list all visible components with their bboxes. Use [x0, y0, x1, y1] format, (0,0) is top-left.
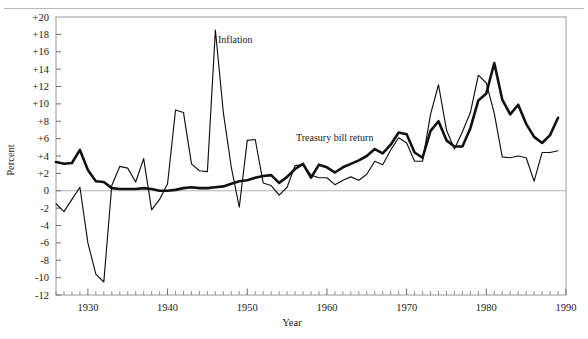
- figure-container: +20+18+16+14+12+10+8+6+4+20-2-4-6-8-10-1…: [0, 0, 588, 339]
- y-tick-label: 0: [44, 185, 49, 196]
- x-tick-label: 1970: [396, 302, 417, 313]
- y-tick-label: +20: [33, 12, 49, 23]
- series-line-inflation: [56, 30, 558, 282]
- y-tick-label: -10: [35, 272, 49, 283]
- top-rule: [4, 8, 584, 9]
- y-axis-ticks: [56, 34, 61, 295]
- plot-frame: [56, 17, 566, 295]
- y-tick-label: +16: [33, 46, 49, 57]
- y-tick-label: +2: [38, 168, 49, 179]
- x-tick-label: 1990: [556, 302, 577, 313]
- series-annotation-inflation: Inflation: [218, 34, 252, 45]
- y-axis-title: Percent: [5, 144, 16, 176]
- inflation-vs-tbill-line-chart: +20+18+16+14+12+10+8+6+4+20-2-4-6-8-10-1…: [0, 0, 588, 339]
- series-line-treasury-bill: [56, 63, 558, 191]
- x-tick-label: 1960: [316, 302, 337, 313]
- y-tick-label: +12: [33, 81, 49, 92]
- y-tick-label: +8: [38, 116, 49, 127]
- y-tick-label: +18: [33, 29, 49, 40]
- x-tick-label: 1940: [157, 302, 178, 313]
- y-tick-label: -8: [40, 255, 49, 266]
- y-tick-label: +14: [33, 64, 50, 75]
- y-tick-label: +10: [33, 98, 49, 109]
- y-tick-label: +6: [38, 133, 49, 144]
- y-tick-label: -2: [40, 203, 49, 214]
- x-axis-ticks: [56, 289, 566, 296]
- y-tick-label: -4: [40, 220, 49, 231]
- x-tick-label: 1930: [77, 302, 98, 313]
- x-tick-label: 1980: [476, 302, 497, 313]
- x-tick-label: 1950: [237, 302, 258, 313]
- x-axis-tick-labels: 1930194019501960197019801990: [77, 302, 576, 313]
- x-axis-title: Year: [282, 317, 302, 328]
- y-axis-tick-labels: +20+18+16+14+12+10+8+6+4+20-2-4-6-8-10-1…: [33, 12, 50, 301]
- y-tick-label: -12: [35, 290, 49, 301]
- series-annotation-treasury-bill: Treasury bill return: [296, 132, 373, 143]
- y-tick-label: -6: [40, 237, 49, 248]
- y-tick-label: +4: [38, 151, 50, 162]
